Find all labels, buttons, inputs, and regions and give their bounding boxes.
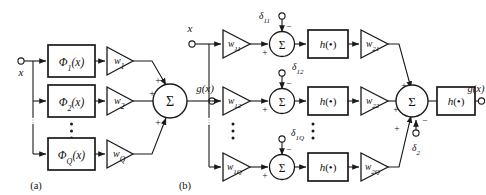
panel-b-row-2-activation-label: h(•) bbox=[320, 161, 337, 174]
panel-b-row-1-activation-label: h(•) bbox=[320, 95, 337, 108]
panel-b-row-1-summation-symbol: Σ bbox=[279, 96, 286, 108]
panel-a-row-2-output-wire bbox=[133, 118, 166, 154]
panel-b-output-label: g(x) bbox=[468, 83, 485, 95]
block-diagram-svg: x Φ1(x) w1 + Φ2(x) w2 + bbox=[0, 0, 486, 195]
panel-b-row-0-input-sign: + bbox=[262, 48, 267, 58]
panel-a-input-terminal[interactable] bbox=[18, 58, 24, 64]
panel-b-vertical-ellipsis-left bbox=[232, 123, 235, 140]
panel-a-row-0-output-wire bbox=[133, 61, 166, 85]
panel-b-input-terminal[interactable] bbox=[189, 41, 195, 47]
panel-b-row-0-bias-label: δ11 bbox=[259, 11, 270, 25]
panel-b-output-terminal[interactable] bbox=[478, 98, 484, 104]
panel-b-output-bias-sign: − bbox=[422, 116, 427, 126]
panel-b-row-1-bias-label: δ12 bbox=[292, 62, 304, 76]
panel-b-row-1-bias-sign: − bbox=[286, 79, 291, 89]
panel-a-summation-symbol: Σ bbox=[166, 94, 174, 109]
panel-b-output-bias-label: δ2 bbox=[412, 143, 420, 157]
panel-b-row-2-output-sign: + bbox=[394, 124, 399, 134]
panel-b-row-0-bias-sign: − bbox=[286, 22, 291, 32]
panel-b-output-bias-terminal[interactable] bbox=[413, 130, 419, 136]
panel-b: x w11 + δ11 − Σ h(•) w21 bbox=[179, 11, 485, 192]
panel-b-row-2-summation-symbol: Σ bbox=[279, 162, 286, 174]
panel-a-caption: (a) bbox=[30, 180, 42, 192]
panel-b-row-0-summation-symbol: Σ bbox=[279, 39, 286, 51]
panel-a-input-label: x bbox=[18, 66, 24, 78]
figure-canvas: x Φ1(x) w1 + Φ2(x) w2 + bbox=[0, 0, 486, 195]
panel-b-row-2-bias-label: δ1Q bbox=[291, 128, 304, 142]
panel-b-caption: (b) bbox=[179, 180, 192, 192]
panel-b-row-2-bias-terminal[interactable] bbox=[279, 136, 285, 142]
panel-a-row-2-sign: + bbox=[155, 117, 161, 128]
panel-b-output-activation-label: h(•) bbox=[448, 95, 465, 108]
panel-b-row-2-bias-sign: − bbox=[286, 145, 291, 155]
panel-b-row-2-input-sign: + bbox=[262, 171, 267, 181]
panel-b-row-1-bias-terminal[interactable] bbox=[279, 70, 285, 76]
panel-b-output-summation-symbol: Σ bbox=[408, 94, 416, 109]
panel-b-row-0-activation-label: h(•) bbox=[320, 38, 337, 51]
panel-a: x Φ1(x) w1 + Φ2(x) w2 + bbox=[18, 45, 216, 192]
panel-b-row-0-bias-terminal[interactable] bbox=[279, 13, 285, 19]
panel-b-vertical-ellipsis-mid bbox=[312, 123, 315, 140]
panel-a-row-0-sign: + bbox=[155, 75, 161, 86]
panel-b-row-0-to-output-sum-wire bbox=[388, 44, 411, 88]
panel-a-vertical-ellipsis bbox=[70, 123, 73, 140]
panel-b-row-1-input-sign: + bbox=[262, 105, 267, 115]
panel-a-output-label: g(x) bbox=[196, 82, 214, 95]
panel-b-input-label: x bbox=[187, 22, 193, 34]
